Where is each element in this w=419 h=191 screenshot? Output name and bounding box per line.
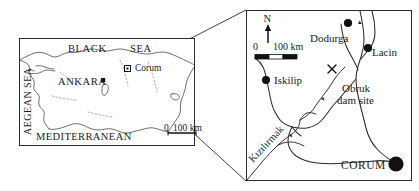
black-sea-label-part2: SEA [130,43,152,54]
iskilip-label: Iskilip [274,74,303,86]
detail-scale-distance-label: 100 km [273,41,304,52]
lacin-marker [364,44,372,52]
lacin-label: Lacin [372,46,398,58]
mediterranean-label: MEDITERRANEAN [36,131,132,142]
corum-inset-box-dot [127,68,129,70]
detail-scale-bar [255,55,297,60]
corum-city-label: CORUM [341,159,386,171]
corum-city-marker [388,156,403,171]
obruk-dam-site-label-line2: dam site [337,94,374,106]
overview-scale-zero-label: 0 [164,123,169,133]
detail-panel: N 0 100 km Dodurga Lacin Iskilip CORUM O… [246,11,411,181]
corum-overview-label: Corum [135,63,162,73]
obruk-dam-site-label-line1: Obruk [342,82,371,94]
location-map-figure: BLACK SEA ANKARA Corum MEDITERRANEAN AEG… [0,0,419,191]
dodurga-label: Dodurga [310,32,348,44]
ankara-label: ANKARA [58,76,107,87]
overview-panel: BLACK SEA ANKARA Corum MEDITERRANEAN AEG… [20,39,203,146]
dodurga-marker [344,19,352,27]
overview-scale-distance-label: 100 km [173,123,202,133]
iskilip-marker [262,76,270,84]
aegean-sea-label: AEGEAN SEA [22,67,33,135]
detail-scale-zero-label: 0 [253,41,258,52]
black-sea-label-part1: BLACK [68,43,107,54]
north-arrow-label: N [264,13,272,24]
